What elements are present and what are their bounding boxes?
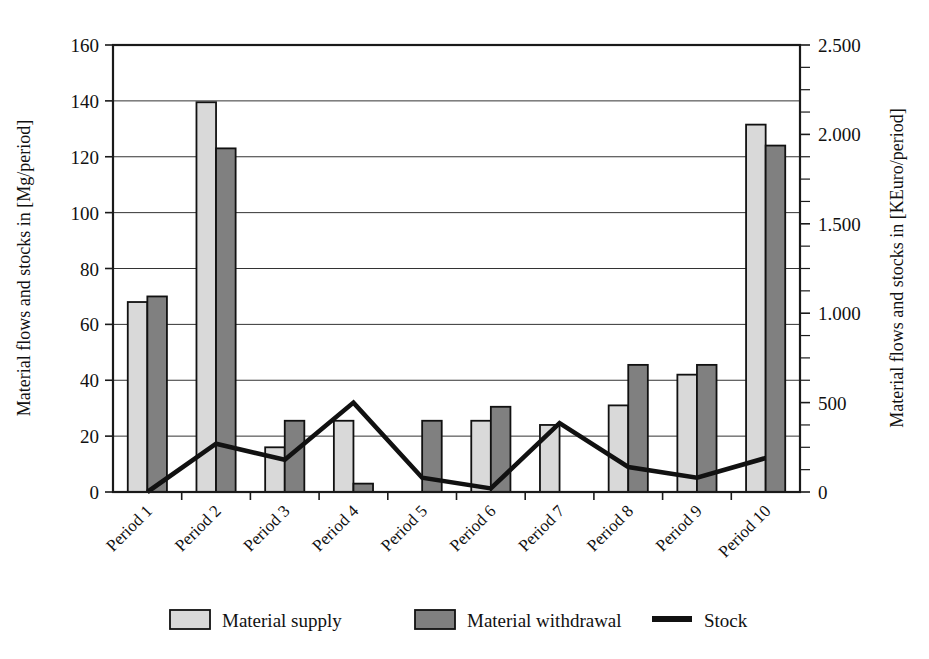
legend-label: Material withdrawal xyxy=(467,610,622,631)
y-axis-right-title: Material flows and stocks in [KEuro/peri… xyxy=(887,108,907,427)
legend-swatch-material-withdrawal xyxy=(415,610,455,629)
y-axis-right-tick-label: 2.000 xyxy=(818,124,861,145)
y-axis-left-tick-label: 40 xyxy=(80,370,99,391)
bar-material-withdrawal xyxy=(216,148,236,492)
material-flows-and-stocks-chart: 020406080100120140160 05001.0001.5002.00… xyxy=(0,0,929,659)
y-axis-left-tick-label: 120 xyxy=(71,147,100,168)
y-axis-left-tick-label: 0 xyxy=(90,482,100,503)
bar-material-withdrawal xyxy=(766,146,786,492)
bar-material-withdrawal xyxy=(353,484,373,492)
bar-material-supply xyxy=(196,102,216,492)
bar-material-supply xyxy=(128,302,148,492)
y-axis-right-tick-label: 2.500 xyxy=(818,35,861,56)
legend-label: Material supply xyxy=(222,610,342,631)
bar-material-supply xyxy=(746,125,766,492)
chart-container: 020406080100120140160 05001.0001.5002.00… xyxy=(0,0,929,659)
legend-label: Stock xyxy=(704,610,748,631)
y-axis-left-tick-label: 80 xyxy=(80,259,99,280)
bar-material-supply xyxy=(609,405,629,492)
y-axis-right-tick-label: 1.000 xyxy=(818,303,861,324)
y-axis-left-tick-label: 20 xyxy=(80,426,99,447)
y-axis-right-tick-label: 1.500 xyxy=(818,214,861,235)
bar-material-supply xyxy=(471,421,491,492)
legend-swatch-material-supply xyxy=(170,610,210,629)
y-axis-right-ticks-group xyxy=(800,45,810,492)
y-axis-left-tick-label: 60 xyxy=(80,314,99,335)
y-axis-left-title: Material flows and stocks in [Mg/period] xyxy=(14,120,34,416)
y-axis-left-tick-label: 160 xyxy=(71,35,100,56)
y-axis-right-tick-label: 0 xyxy=(818,482,828,503)
y-axis-left-tick-label: 100 xyxy=(71,203,100,224)
y-axis-right-tick-label: 500 xyxy=(818,393,847,414)
bar-material-withdrawal xyxy=(628,365,648,492)
y-axis-left-tick-label: 140 xyxy=(71,91,100,112)
bar-material-supply xyxy=(334,421,354,492)
bar-material-withdrawal xyxy=(147,296,167,492)
